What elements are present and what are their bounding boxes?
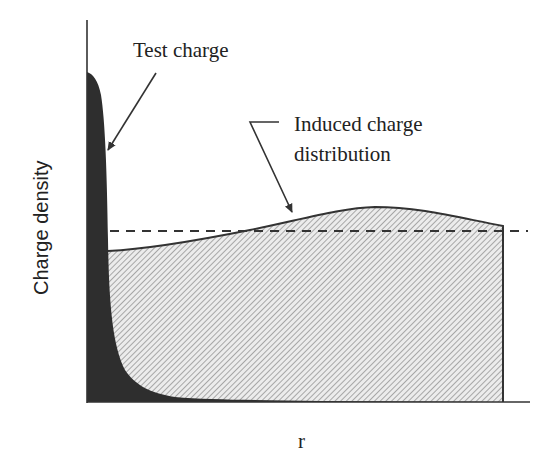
x-axis-label: r: [298, 429, 305, 453]
charge-density-diagram: Test charge Induced charge distribution …: [0, 0, 560, 463]
induced-charge-region: [108, 207, 503, 402]
y-axis-label: Charge density: [30, 160, 52, 295]
test-charge-arrow: [108, 73, 156, 150]
induced-charge-arrow: [250, 122, 292, 212]
test-charge-label: Test charge: [133, 38, 229, 62]
induced-charge-label-line1: Induced charge: [294, 112, 422, 136]
induced-charge-label-line2: distribution: [294, 142, 391, 166]
